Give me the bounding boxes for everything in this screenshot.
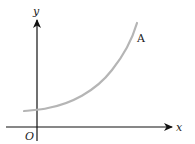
curve-a <box>24 23 137 111</box>
x-axis-label: x <box>176 121 183 134</box>
origin-label: O <box>25 130 34 143</box>
y-axis-label: y <box>32 5 40 18</box>
curve-a-label: A <box>136 32 146 45</box>
graph-canvas: y x O A <box>0 0 195 144</box>
